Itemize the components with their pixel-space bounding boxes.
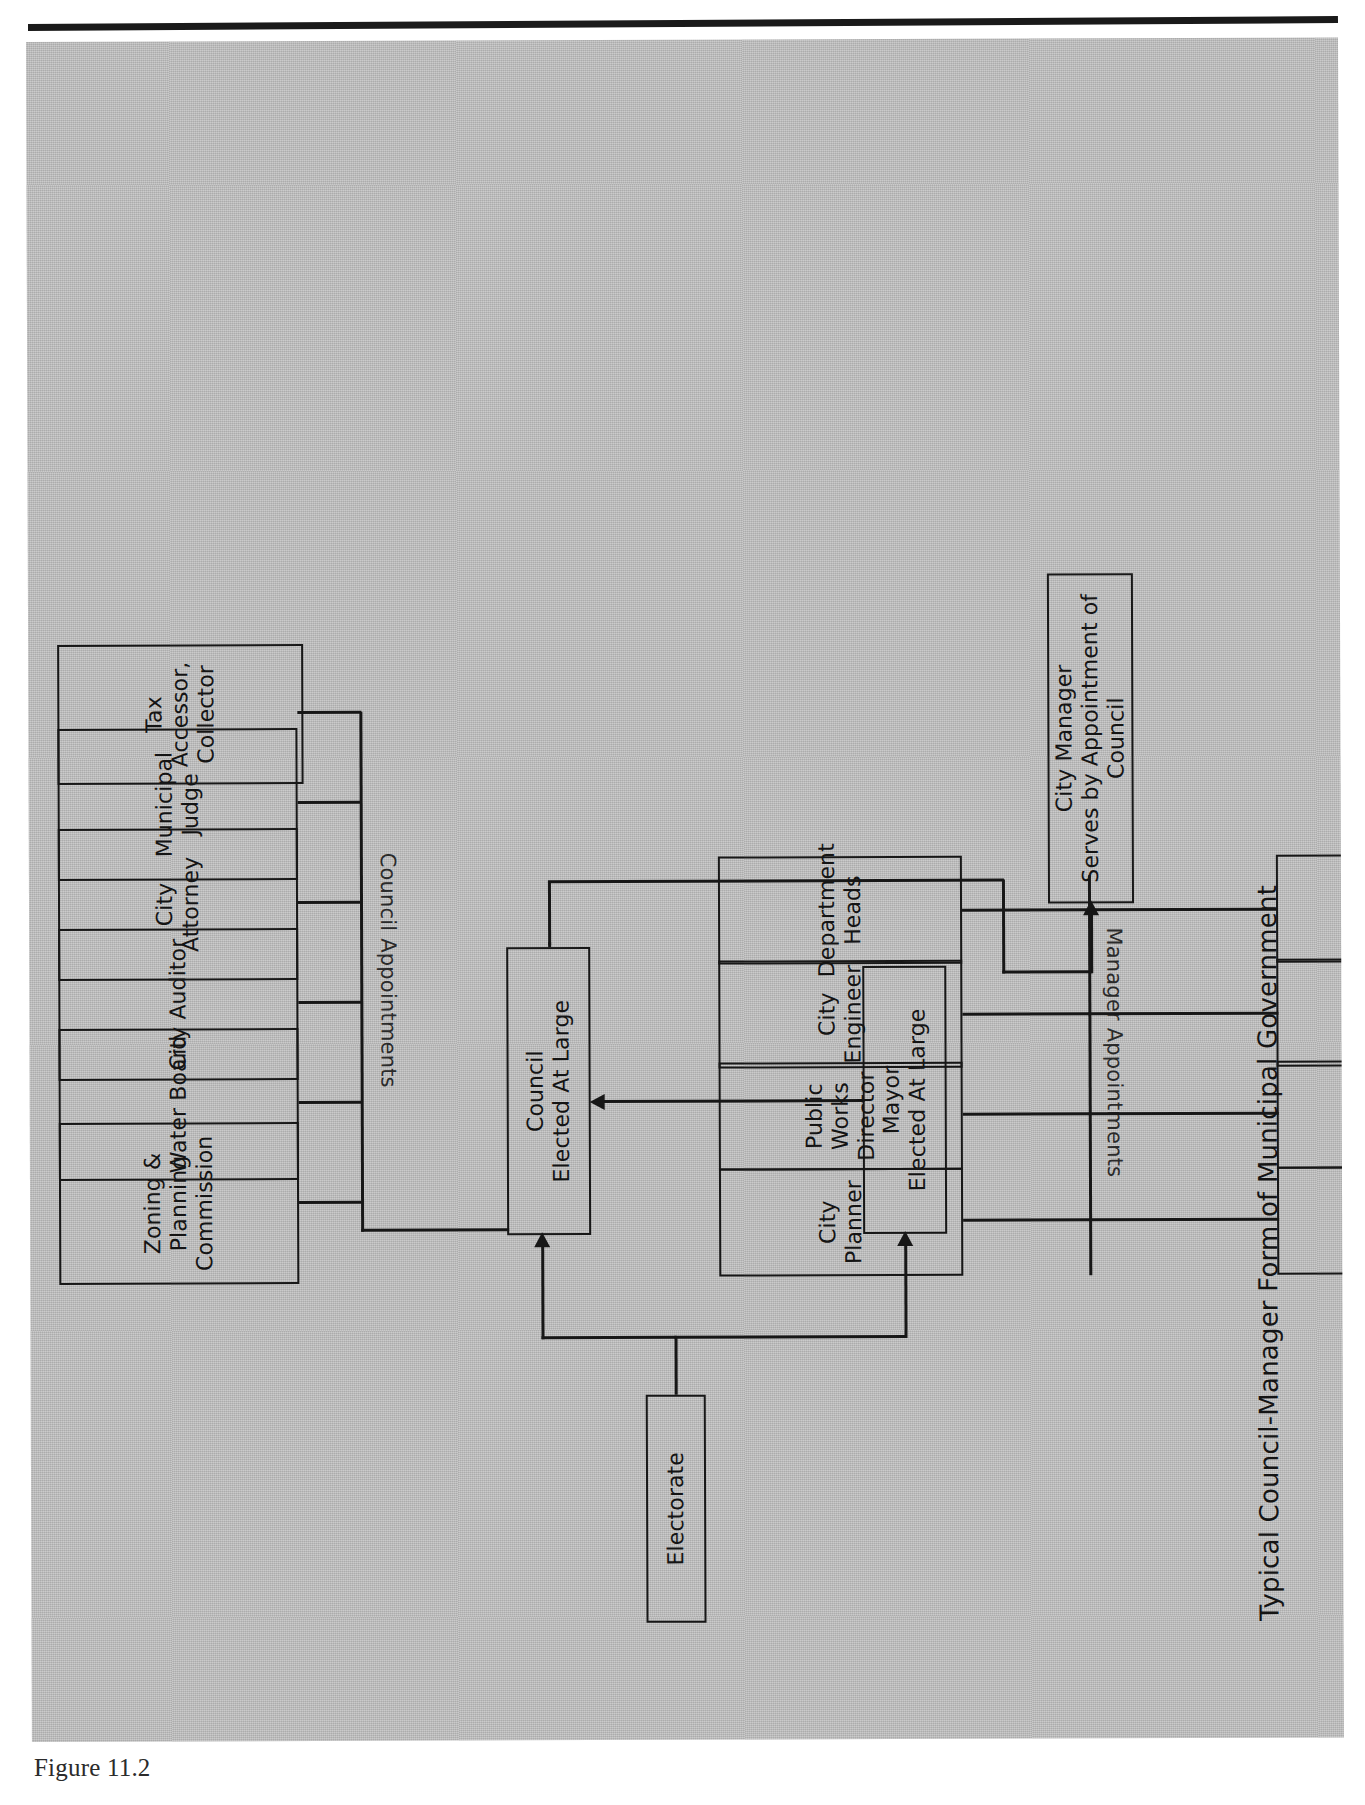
- bus-label-council-appointments: Council Appointments: [376, 853, 401, 1088]
- scanned-page: Typical Council-Manager Form of Municipa…: [0, 0, 1365, 1805]
- edge-council-to-manager-h2: [1002, 880, 1005, 974]
- edge-bus-to-dept-heads: [962, 909, 1090, 912]
- node-department-heads-label: Department Heads: [814, 843, 866, 977]
- edge-bus-to-fire-chief: [1089, 1112, 1279, 1115]
- arrowhead-mayor-to-council: [590, 1094, 605, 1110]
- org-chart-diagram: Typical Council-Manager Form of Municipa…: [37, 42, 1333, 1736]
- node-council-sublabel: Elected At Large: [548, 1000, 575, 1183]
- edge-electorate-stub: [675, 1337, 678, 1395]
- node-tax-assessor-collector-label: Tax Accessor, Collector: [141, 650, 219, 778]
- edge-bus-to-police-chief: [1089, 1218, 1279, 1221]
- node-city-planner-label: City Planner: [815, 1174, 867, 1270]
- edge-bus-to-municipal-judge: [298, 801, 362, 804]
- page-header-rule: [28, 16, 1338, 31]
- node-city-manager-sublabel: Serves by Appointment of Council: [1077, 579, 1130, 897]
- node-department-heads[interactable]: Department Heads: [718, 856, 962, 965]
- figure-clip-area: Typical Council-Manager Form of Municipa…: [26, 37, 1344, 1742]
- node-city-planner[interactable]: City Planner: [719, 1168, 963, 1277]
- bus-label-manager-appointments: Manager Appointments: [1102, 927, 1127, 1177]
- edge-bus-to-city-engineer: [962, 1013, 1090, 1016]
- edge-bus-to-public-works: [963, 1113, 1091, 1116]
- edge-bus-to-zoning: [299, 1201, 363, 1204]
- edge-council-to-manager-v2: [1002, 971, 1092, 974]
- node-city-manager[interactable]: City Manager Serves by Appointment of Co…: [1047, 573, 1134, 903]
- edge-bus-to-tax-assessor: [297, 711, 361, 714]
- edge-bus-to-city-attorney: [298, 901, 362, 904]
- node-council[interactable]: Council Elected At Large: [506, 947, 591, 1235]
- edge-electorate-to-council-h: [541, 1243, 544, 1339]
- node-city-engineer-label: City Engineer: [814, 965, 866, 1064]
- node-fire-chief[interactable]: Fire Chief: [1277, 1060, 1344, 1169]
- node-police-chief[interactable]: Police Chief: [1277, 1166, 1344, 1275]
- edge-electorate-to-council-v: [542, 1336, 677, 1339]
- edge-bus-to-water-board: [299, 1101, 363, 1104]
- node-electorate[interactable]: Electorate: [646, 1395, 707, 1623]
- edge-bus-to-city-auditor: [298, 1001, 362, 1004]
- edge-bus-to-other-staff: [1088, 908, 1278, 911]
- edge-electorate-to-mayor-v: [675, 1335, 907, 1338]
- node-public-works-director[interactable]: Public Works Director: [719, 1062, 963, 1171]
- node-other-staff[interactable]: Other Staff: [1276, 854, 1344, 963]
- node-council-label: Council: [523, 1050, 549, 1132]
- edge-bus-to-city-planner: [963, 1219, 1091, 1222]
- node-public-works-director-label: Public Works Director: [802, 1068, 880, 1164]
- edge-bus-to-building-official: [1088, 1012, 1278, 1015]
- node-electorate-label: Electorate: [663, 1452, 689, 1566]
- figure-caption: Figure 11.2: [34, 1754, 151, 1782]
- node-city-manager-label: City Manager: [1051, 664, 1077, 812]
- node-building-official[interactable]: Building Official: [1276, 958, 1344, 1067]
- node-tax-assessor-collector[interactable]: Tax Accessor, Collector: [57, 644, 303, 785]
- council-appointments-bus: [359, 712, 363, 1232]
- edge-council-to-appointment-bus: [361, 1229, 509, 1232]
- edge-council-to-manager-h1: [548, 881, 551, 947]
